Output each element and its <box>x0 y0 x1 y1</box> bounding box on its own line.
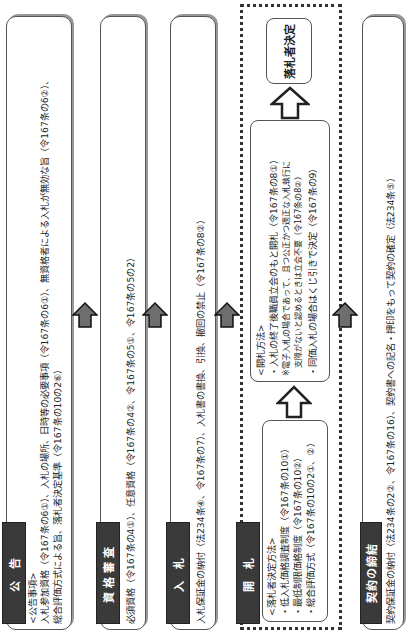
koukoku-line-2: 総合評価方式による旨、落札者決定基準（令167条の10の2⑥） <box>51 365 64 624</box>
decision-method-line-1: ・低入札価格調査制度（令167条の10①） <box>278 444 291 616</box>
step-nyusatsu-label: 入 札 <box>166 522 190 624</box>
arrow-right-icon <box>72 301 98 329</box>
opening-method-line-3: 支障がないと認めるときは立会不要（令167条の8②） <box>293 172 305 376</box>
decision-method-heading: <落札者決定方法> <box>265 538 278 616</box>
arrow-right-icon <box>142 301 168 329</box>
opening-method-line-4: ・同価入札の場合はくじ引きで決定（令167条の9） <box>306 164 319 376</box>
opening-method-line-1: ・入札の終了後職員立会のもと開札（令167条の8①） <box>267 155 280 376</box>
opening-method-line-2: ※電子入札の場合であって、且つ公正かつ適正な入札執行に <box>281 161 293 376</box>
opening-method-heading: <開札方法> <box>254 325 267 376</box>
decision-method-line-3: ・総合評価方式（令167条の10の2①、②） <box>304 438 317 616</box>
step-keiyaku-label: 契約の締結 <box>360 522 382 624</box>
step-shikaku-label: 資格審査 <box>96 522 120 624</box>
keiyaku-line-1: 契約保証金の納付（法234条の2②、令167条の16）、契約書への記名・押印をも… <box>384 173 397 624</box>
shikaku-line-1: 必須資格（令167条の4①）、任意資格（令167条の4②、令167条の5①、令1… <box>124 253 137 624</box>
hollow-arrow-right-icon <box>276 385 312 419</box>
flow-diagram: 公 告 <公告事項> 入札参加資格（令167条の6①）、入札の場所、日時等の必要… <box>0 0 409 644</box>
winner-decision-label: 落札者決定 <box>281 24 297 79</box>
winner-decision-box: 落札者決定 <box>266 18 312 84</box>
step-koukoku-label: 公 告 <box>2 522 26 624</box>
arrow-right-icon <box>332 301 358 329</box>
koukoku-line-1: 入札参加資格（令167条の6①）、入札の場所、日時等の必要事項（令167条の6①… <box>38 76 51 624</box>
nyusatsu-line-1: 入札保証金の納付（法234条④、令167条の7）、入札書の書換、引換、撤回の禁止… <box>194 215 207 624</box>
hollow-arrow-right-icon <box>270 86 310 120</box>
decision-method-line-2: ・最低制限価格制度（令167条の10②） <box>291 453 304 616</box>
step-kaisatsu-label: 開 札 <box>236 522 260 624</box>
arrow-right-icon <box>214 301 240 329</box>
